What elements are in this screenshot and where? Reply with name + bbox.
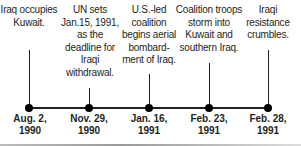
bottom-divider bbox=[0, 144, 301, 146]
event-date: Aug. 2, 1990 bbox=[0, 113, 60, 136]
event-date: Jan. 16, 1991 bbox=[119, 113, 179, 136]
event-date-year: 1990 bbox=[59, 125, 119, 137]
event-date: Nov. 29, 1990 bbox=[59, 113, 119, 136]
event-description: Coalition troops storm into Kuwait and s… bbox=[174, 4, 244, 54]
timeline-marker bbox=[25, 104, 33, 112]
event-date-year: 1991 bbox=[238, 125, 298, 137]
timeline-marker bbox=[85, 104, 93, 112]
event-date-year: 1991 bbox=[179, 125, 239, 137]
timeline-marker bbox=[145, 104, 153, 112]
timeline-marker bbox=[205, 104, 213, 112]
event-date-day: Feb. 23, bbox=[179, 113, 239, 125]
event-description: Iraqi resistance crumbles. bbox=[238, 4, 298, 42]
event-connector bbox=[149, 74, 151, 108]
timeline-marker bbox=[264, 104, 272, 112]
event-date: Feb. 28, 1991 bbox=[238, 113, 298, 136]
event-description: Iraq occupies Kuwait. bbox=[0, 4, 59, 29]
event-connector bbox=[209, 63, 211, 108]
event-connector bbox=[29, 50, 31, 108]
event-connector bbox=[268, 50, 270, 108]
event-date-day: Feb. 28, bbox=[238, 113, 298, 125]
event-description: U.S.-led coalition begins aerial bombard… bbox=[119, 4, 179, 67]
event-date-day: Nov. 29, bbox=[59, 113, 119, 125]
event-description: UN sets Jan.15, 1991, as the deadline fo… bbox=[59, 4, 121, 79]
event-date-year: 1991 bbox=[119, 125, 179, 137]
event-date-day: Jan. 16, bbox=[119, 113, 179, 125]
event-date-day: Aug. 2, bbox=[0, 113, 60, 125]
event-date-year: 1990 bbox=[0, 125, 60, 137]
event-date: Feb. 23, 1991 bbox=[179, 113, 239, 136]
